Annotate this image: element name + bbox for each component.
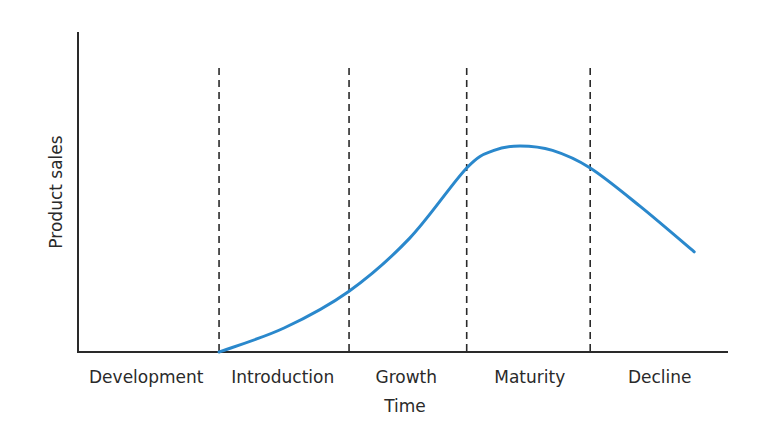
x-axis-title: Time bbox=[383, 396, 426, 416]
stage-label-development: Development bbox=[89, 367, 204, 387]
stage-boundaries bbox=[219, 68, 590, 352]
stage-label-maturity: Maturity bbox=[494, 367, 565, 387]
sales-curve bbox=[219, 146, 694, 352]
stage-label-growth: Growth bbox=[375, 367, 437, 387]
stage-labels: DevelopmentIntroductionGrowthMaturityDec… bbox=[89, 367, 692, 387]
y-axis-title: Product sales bbox=[46, 135, 66, 248]
stage-label-decline: Decline bbox=[628, 367, 692, 387]
product-life-cycle-chart: DevelopmentIntroductionGrowthMaturityDec… bbox=[0, 0, 768, 430]
stage-label-introduction: Introduction bbox=[231, 367, 334, 387]
